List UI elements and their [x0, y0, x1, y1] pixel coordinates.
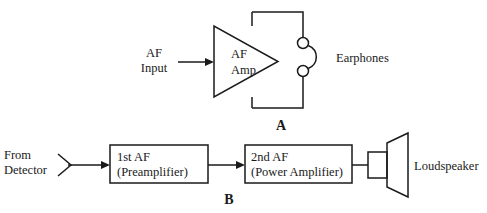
panel-b-letter: B [224, 192, 233, 207]
earphones-label: Earphones [336, 51, 389, 65]
earphone-circuit-loop [252, 12, 303, 108]
earphones-icon [298, 38, 317, 77]
panel-b-group: From Detector 1st AF (Preamplifier) [4, 133, 479, 207]
loudspeaker-icon [368, 133, 408, 197]
detector-to-stage1-arrow-icon [68, 161, 110, 169]
af-amp-triangle-icon [214, 26, 278, 97]
stage1-label-line2: (Preamplifier) [117, 165, 188, 179]
loudspeaker-label: Loudspeaker [414, 159, 479, 173]
figure-root: AF Input AF Amp [0, 0, 487, 213]
from-detector-label-line1: From [4, 148, 31, 162]
af-amp-label-line1: AF [231, 47, 247, 61]
stage1-label-line1: 1st AF [117, 150, 150, 164]
panel-a-letter: A [276, 118, 287, 133]
af-input-label-line1: AF [146, 46, 162, 60]
af-input-label-line2: Input [141, 61, 168, 75]
from-detector-label-line2: Detector [4, 163, 48, 177]
af-amp-label-line2: Amp [231, 63, 256, 77]
stage2-label-line2: (Power Amplifier) [251, 165, 343, 179]
stage1-to-stage2-arrow-icon [208, 161, 245, 169]
af-input-arrow-icon [178, 58, 214, 66]
panel-a-group: AF Input AF Amp [141, 12, 389, 133]
stage2-label-line1: 2nd AF [251, 150, 288, 164]
diagram-canvas: AF Input AF Amp [0, 0, 487, 213]
